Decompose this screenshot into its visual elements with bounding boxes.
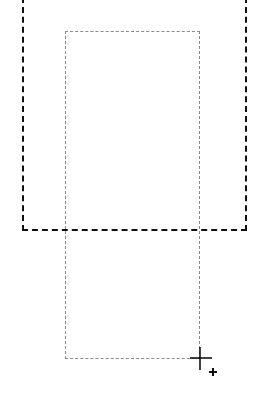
crosshair-add-icon	[188, 345, 220, 377]
selection-rectangle-inner[interactable]	[65, 31, 200, 359]
